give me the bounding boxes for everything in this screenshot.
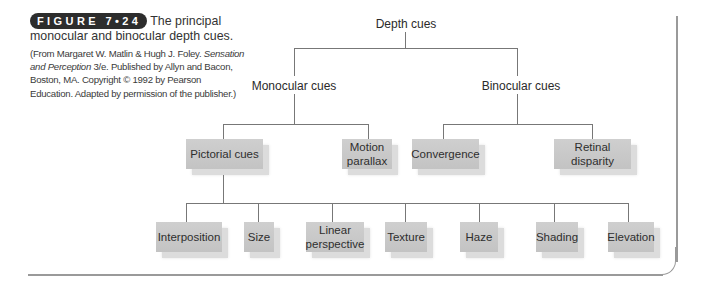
node-elevation: Elevation [608,222,654,252]
node-texture: Texture [385,222,427,252]
node-convergence: Convergence [412,139,479,169]
node-interposition: Interposition [156,222,222,252]
connector [368,124,369,140]
connector [186,203,187,222]
node-size: Size [244,222,274,252]
figure-caption: FIGURE 7•24The principal monocular and b… [30,13,245,100]
connector [443,124,444,140]
source-prefix: (From Margaret W. Matlin & Hugh J. Foley… [30,48,204,59]
connector [517,94,518,124]
connector [332,203,333,222]
connector [479,203,480,222]
node-retinal-disparity: Retinal disparity [554,139,631,169]
node-pictorial-cues: Pictorial cues [186,139,263,169]
caption-title-line: FIGURE 7•24The principal monocular and b… [30,13,245,44]
connector [294,48,295,76]
connector [405,203,406,222]
frame-border-right [676,16,678,262]
connector [554,203,555,222]
node-depth-cues: Depth cues [376,17,437,31]
caption-source: (From Margaret W. Matlin & Hugh J. Foley… [30,47,245,100]
connector [443,124,593,125]
connector [294,48,518,49]
connector [405,32,406,49]
node-monocular-cues: Monocular cues [252,79,337,93]
connector [223,175,224,203]
connector [592,124,593,140]
node-linear-perspective: Linear perspective [306,222,364,252]
connector [223,124,224,140]
node-binocular-cues: Binocular cues [482,79,561,93]
connector [517,48,518,76]
node-motion-parallax: Motion parallax [342,139,392,169]
node-shading: Shading [536,222,578,252]
connector [223,124,369,125]
node-haze: Haze [460,222,498,252]
connector [628,203,629,222]
frame-border-bottom [28,274,663,276]
connector [258,203,259,222]
figure-badge: FIGURE 7•24 [30,13,147,29]
connector [294,94,295,124]
connector [186,203,629,204]
